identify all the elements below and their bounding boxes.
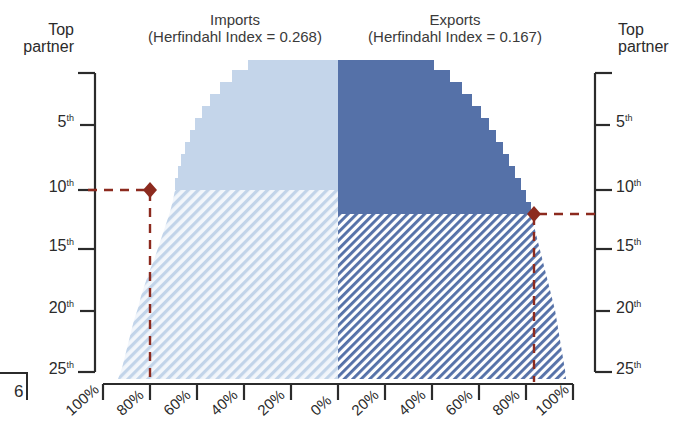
y-left-label-10th: 10th <box>8 179 74 196</box>
y-left-label-top-partner: Top partner <box>8 22 74 56</box>
chart-root: Imports (Herfindahl Index = 0.268) Expor… <box>0 0 690 447</box>
y-left-label-20th: 20th <box>8 300 74 317</box>
y-right-label-top-partner: Top partner <box>618 22 688 56</box>
exports-hatched-area <box>338 214 566 379</box>
y-right-label-15th: 15th <box>616 238 686 255</box>
y-right-label-5th: 5th <box>616 114 686 131</box>
y-left-label-5th: 5th <box>8 114 74 131</box>
imports-solid-area <box>175 60 338 190</box>
imports-marker-diamond <box>143 182 157 198</box>
y-right-label-10th: 10th <box>616 179 686 196</box>
y-right-label-20th: 20th <box>616 300 686 317</box>
y-axis-right <box>595 73 612 372</box>
exports-solid-area <box>338 60 531 214</box>
imports-hatched-area <box>118 190 338 379</box>
page-number: 6 <box>14 382 23 402</box>
y-axis-left <box>78 73 95 372</box>
plot-area <box>0 0 690 447</box>
y-right-label-25th: 25th <box>616 361 686 378</box>
y-left-label-15th: 15th <box>8 238 74 255</box>
